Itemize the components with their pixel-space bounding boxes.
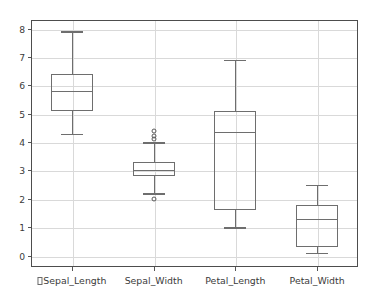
y-tick-mark	[28, 142, 32, 143]
y-tick-label: 7	[0, 51, 25, 62]
y-tick-mark	[28, 57, 32, 58]
y-tick-mark	[28, 227, 32, 228]
box-petal_width	[296, 205, 338, 248]
y-tick-label: 1	[0, 222, 25, 233]
whisker-lower-petal_length	[235, 210, 236, 227]
y-gridline	[32, 58, 357, 59]
y-tick-mark	[28, 85, 32, 86]
y-tick-mark	[28, 170, 32, 171]
cap-upper-petal_width	[306, 185, 328, 187]
box-petal_length	[214, 111, 256, 210]
cap-upper-petal_length	[224, 60, 246, 62]
outlier-sepal_width	[151, 196, 156, 201]
median-petal_width	[296, 219, 338, 220]
y-tick-label: 3	[0, 165, 25, 176]
boxplot-figure: 012345678Sepal_LengthSepal_WidthPetal_Le…	[0, 0, 377, 304]
whisker-lower-sepal_width	[154, 176, 155, 193]
x-tick-label-petal_width: Petal_Width	[290, 275, 345, 286]
y-gridline	[32, 143, 357, 144]
y-tick-mark	[28, 256, 32, 257]
y-gridline	[32, 200, 357, 201]
x-gridline	[73, 21, 74, 266]
y-gridline	[32, 115, 357, 116]
y-tick-mark	[28, 29, 32, 30]
x-tick-mark	[317, 267, 318, 271]
x-tick-label-sepal_width: Sepal_Width	[125, 275, 183, 286]
whisker-upper-sepal_length	[72, 31, 73, 74]
whisker-upper-sepal_width	[154, 142, 155, 162]
whisker-upper-petal_length	[235, 60, 236, 111]
missing-glyph-icon	[37, 277, 42, 285]
y-tick-label: 5	[0, 108, 25, 119]
median-sepal_width	[133, 170, 175, 171]
median-petal_length	[214, 132, 256, 133]
whisker-upper-petal_width	[317, 185, 318, 205]
box-sepal_width	[133, 162, 175, 176]
x-tick-label-sepal_length: Sepal_Length	[37, 275, 106, 286]
cap-upper-sepal_width	[143, 142, 165, 144]
cap-lower-sepal_width	[143, 193, 165, 195]
y-tick-label: 8	[0, 23, 25, 34]
y-gridline	[32, 171, 357, 172]
box-sepal_length	[51, 74, 93, 111]
y-tick-mark	[28, 199, 32, 200]
median-sepal_length	[51, 91, 93, 92]
y-tick-label: 6	[0, 80, 25, 91]
outlier-sepal_width	[151, 137, 156, 142]
x-tick-mark	[72, 267, 73, 271]
x-tick-mark	[235, 267, 236, 271]
cap-lower-petal_length	[224, 227, 246, 229]
cap-upper-sepal_length	[61, 31, 83, 33]
outlier-sepal_width	[151, 128, 156, 133]
y-tick-label: 0	[0, 250, 25, 261]
cap-lower-sepal_length	[61, 134, 83, 136]
x-tick-label-petal_length: Petal_Length	[205, 275, 265, 286]
cap-lower-petal_width	[306, 253, 328, 255]
y-tick-mark	[28, 114, 32, 115]
whisker-lower-sepal_length	[72, 111, 73, 134]
y-gridline	[32, 257, 357, 258]
y-tick-label: 4	[0, 137, 25, 148]
x-tick-mark	[154, 267, 155, 271]
y-tick-label: 2	[0, 193, 25, 204]
